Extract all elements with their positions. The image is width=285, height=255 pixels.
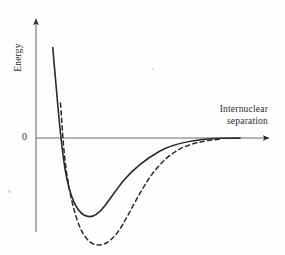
x-axis-label-line2: separation [227, 116, 268, 126]
scan-artifact-speckle [8, 190, 11, 193]
x-axis-label-line1: Internuclear [220, 104, 268, 114]
solid-potential-curve [53, 48, 240, 217]
plot-canvas [0, 0, 285, 255]
scan-artifact-speckle [152, 68, 154, 70]
zero-tick-label: 0 [22, 131, 27, 143]
y-axis-label-text: Energy [13, 60, 25, 72]
y-axis-label: Energy [13, 60, 25, 72]
x-axis-label: Internuclear separation [150, 104, 268, 127]
potential-energy-diagram: Energy Internuclear separation 0 [0, 0, 285, 255]
